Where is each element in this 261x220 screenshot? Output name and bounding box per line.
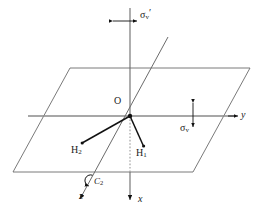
z-axis-line (80, 37, 168, 199)
bond-oxygen-hydrogen-1 (130, 116, 143, 145)
sigma-v-label: σv (180, 123, 189, 134)
hydrogen-2-label: H2 (71, 145, 82, 156)
z-axis-label: z (79, 191, 83, 201)
bond-oxygen-hydrogen-2 (83, 116, 130, 143)
hydrogen-1-label: H1 (136, 148, 147, 159)
hydrogen-1-index: 1 (143, 151, 147, 159)
c2-rotation-arrow (85, 175, 93, 186)
c2-order: 2 (100, 179, 103, 186)
hydrogen-2-index: 2 (78, 148, 82, 156)
origin-label: O (114, 96, 121, 106)
sigma-v-subscript: v (185, 126, 189, 134)
sigma-v-prime-label: σv′ (140, 8, 151, 21)
y-axis-label: y (241, 110, 245, 120)
c2-axis-label: C2 (94, 177, 103, 187)
diagram-canvas (0, 0, 261, 220)
sigma-v-prime-mark: ′ (149, 7, 151, 18)
symmetry-diagram: O H1 H2 x y z σv σv′ C2 (0, 0, 261, 220)
oxygen-atom (128, 114, 132, 118)
x-axis-label: x (138, 194, 142, 204)
